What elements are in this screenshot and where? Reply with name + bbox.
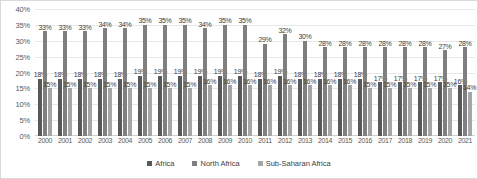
x-axis-tick-label: 2003 [95, 137, 115, 151]
bar[interactable]: 18% [358, 79, 362, 136]
y-axis-tick-label: 10% [16, 100, 30, 109]
x-axis-tick-label: 2005 [135, 137, 155, 151]
bar[interactable]: 15% [68, 88, 72, 136]
bar[interactable]: 15% [388, 88, 392, 136]
y-axis-tick-label: 35% [16, 20, 30, 29]
bar-group: 18%28%16% [315, 9, 335, 136]
bar[interactable]: 16% [228, 85, 232, 136]
bar-group: 19%32%16% [275, 9, 295, 136]
x-axis-tick-label: 2021 [455, 137, 475, 151]
bar[interactable]: 15% [368, 88, 372, 136]
bar[interactable]: 29% [263, 44, 267, 136]
bar-value-label: 27% [438, 43, 451, 50]
bar[interactable]: 19% [238, 76, 242, 136]
bar-group: 17%28%15% [415, 9, 435, 136]
legend-item[interactable]: Africa [147, 159, 174, 168]
bar[interactable]: 19% [198, 76, 202, 136]
bar-group: 18%29%16% [255, 9, 275, 136]
bar[interactable]: 16% [458, 85, 462, 136]
bar[interactable]: 19% [178, 76, 182, 136]
bar[interactable]: 15% [148, 88, 152, 136]
bar[interactable]: 15% [428, 88, 432, 136]
bar-chart: 40%35%30%25%20%15%10%5%0% 18%33%15%18%33… [0, 0, 478, 179]
bar-value-label: 14% [463, 84, 476, 91]
bar-group: 18%30%16% [295, 9, 315, 136]
bar[interactable]: 18% [38, 79, 42, 136]
bar[interactable]: 16% [308, 85, 312, 136]
legend-item[interactable]: North Africa [192, 159, 239, 168]
bar[interactable]: 15% [128, 88, 132, 136]
bar[interactable]: 16% [288, 85, 292, 136]
y-axis-tick-label: 0% [20, 132, 30, 141]
x-axis-tick-label: 2015 [335, 137, 355, 151]
bar[interactable]: 16% [248, 85, 252, 136]
bar-group: 18%28%15% [355, 9, 375, 136]
bar[interactable]: 15% [188, 88, 192, 136]
bar[interactable]: 19% [278, 76, 282, 136]
bar-value-label: 33% [38, 24, 51, 31]
bar[interactable]: 15% [448, 88, 452, 136]
bar[interactable]: 17% [438, 82, 442, 136]
bar[interactable]: 15% [168, 88, 172, 136]
bar-value-label: 28% [458, 40, 471, 47]
bar[interactable]: 16% [348, 85, 352, 136]
legend-label: North Africa [200, 159, 239, 168]
bar[interactable]: 18% [78, 79, 82, 136]
bar-value-label: 35% [218, 17, 231, 24]
bar-value-label: 30% [298, 33, 311, 40]
bar[interactable]: 28% [343, 47, 347, 136]
x-axis-tick-label: 2016 [355, 137, 375, 151]
x-axis-tick-label: 2020 [435, 137, 455, 151]
bar[interactable]: 15% [108, 88, 112, 136]
bar-group: 19%34%16% [195, 9, 215, 136]
bar[interactable]: 19% [158, 76, 162, 136]
x-axis-tick-label: 2009 [215, 137, 235, 151]
bar[interactable]: 32% [283, 34, 287, 136]
x-axis: 2000200120022003200420052006200720082009… [35, 137, 475, 151]
bar-value-label: 33% [78, 24, 91, 31]
bar[interactable]: 27% [443, 50, 447, 136]
bar-value-label: 32% [278, 27, 291, 34]
x-axis-tick-label: 2010 [235, 137, 255, 151]
bar[interactable]: 28% [383, 47, 387, 136]
bar-value-label: 34% [198, 21, 211, 28]
bar[interactable]: 15% [48, 88, 52, 136]
bar[interactable]: 16% [268, 85, 272, 136]
x-axis-tick-label: 2014 [315, 137, 335, 151]
bar[interactable]: 17% [398, 82, 402, 136]
bar-group: 18%34%15% [95, 9, 115, 136]
bar[interactable]: 18% [258, 79, 262, 136]
x-axis-tick-label: 2011 [255, 137, 275, 151]
bar[interactable]: 28% [403, 47, 407, 136]
bar[interactable]: 17% [378, 82, 382, 136]
x-axis-tick-label: 2017 [375, 137, 395, 151]
bar-value-label: 35% [178, 17, 191, 24]
bar[interactable]: 18% [58, 79, 62, 136]
legend-item[interactable]: Sub-Saharan Africa [258, 159, 331, 168]
legend-label: Sub-Saharan Africa [266, 159, 331, 168]
bar[interactable]: 16% [208, 85, 212, 136]
bar-group: 17%27%15% [435, 9, 455, 136]
bar[interactable]: 28% [363, 47, 367, 136]
bar[interactable]: 18% [338, 79, 342, 136]
bar[interactable]: 14% [468, 92, 472, 136]
bar[interactable]: 28% [323, 47, 327, 136]
bar[interactable]: 16% [328, 85, 332, 136]
bar[interactable]: 18% [98, 79, 102, 136]
bar-value-label: 28% [398, 40, 411, 47]
bar[interactable]: 30% [303, 41, 307, 136]
chart-legend: AfricaNorth AfricaSub-Saharan Africa [1, 159, 477, 168]
bar[interactable]: 18% [118, 79, 122, 136]
bar[interactable]: 19% [218, 76, 222, 136]
bar[interactable]: 15% [408, 88, 412, 136]
bar[interactable]: 18% [318, 79, 322, 136]
legend-label: Africa [155, 159, 174, 168]
bar-value-label: 28% [358, 40, 371, 47]
bar[interactable]: 18% [298, 79, 302, 136]
bar[interactable]: 19% [138, 76, 142, 136]
bar[interactable]: 28% [423, 47, 427, 136]
bar[interactable]: 17% [418, 82, 422, 136]
legend-swatch-icon [147, 161, 152, 166]
bar[interactable]: 28% [463, 47, 467, 136]
bar[interactable]: 15% [88, 88, 92, 136]
